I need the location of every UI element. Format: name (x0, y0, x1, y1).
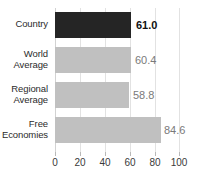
plot-area (55, 0, 180, 152)
tick-60 (130, 152, 131, 156)
tick-label-0: 0 (52, 157, 58, 168)
bar-chart: Country World Average Regional Average F… (0, 0, 200, 182)
tick-label-40: 40 (99, 157, 110, 168)
tick-label-100: 100 (171, 157, 188, 168)
tick-0 (55, 152, 56, 156)
bar-row-world-average[interactable] (55, 47, 131, 73)
tick-label-60: 60 (124, 157, 135, 168)
value-label-world-average: 60.4 (135, 54, 156, 66)
tick-label-80: 80 (149, 157, 160, 168)
tick-40 (105, 152, 106, 156)
category-label-country: Country (0, 19, 48, 30)
tick-20 (80, 152, 81, 156)
bar-row-country[interactable] (55, 12, 131, 38)
category-label-world-average-l2: Average (0, 60, 48, 71)
tick-label-20: 20 (74, 157, 85, 168)
tick-100 (179, 152, 180, 156)
bar-country[interactable] (55, 12, 131, 38)
category-label-free-economies-l2: Economies (0, 130, 48, 141)
value-label-regional-average: 58.8 (133, 89, 154, 101)
category-label-free-economies-l1: Free (0, 119, 48, 130)
bar-world-average[interactable] (55, 47, 131, 73)
bar-free-economies[interactable] (55, 117, 161, 143)
category-label-world-average-l1: World (0, 49, 48, 60)
x-axis: 0 20 40 60 80 100 (55, 152, 180, 182)
tick-80 (155, 152, 156, 156)
category-label-regional-average-l1: Regional (0, 84, 48, 95)
bar-row-free-economies[interactable] (55, 117, 161, 143)
value-label-free-economies: 84.6 (164, 124, 185, 136)
bar-regional-average[interactable] (55, 82, 129, 108)
bar-row-regional-average[interactable] (55, 82, 129, 108)
category-label-regional-average-l2: Average (0, 95, 48, 106)
value-label-country: 61.0 (136, 19, 157, 31)
